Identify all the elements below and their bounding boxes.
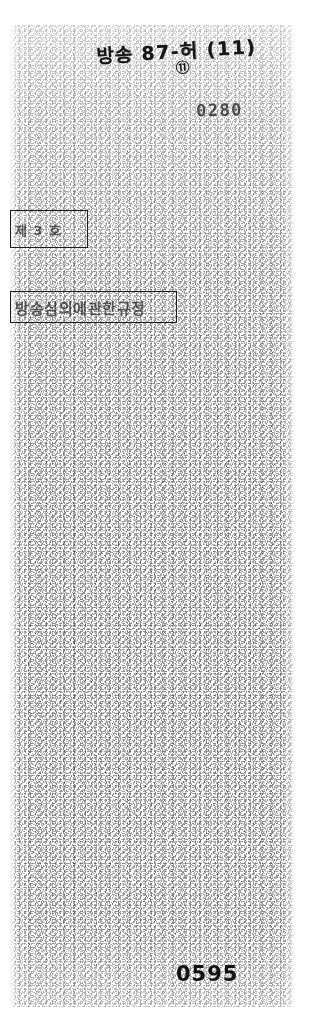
document-title-box: 방송심의에관한규정 (10, 291, 177, 323)
document-title-box-text: 방송심의에관한규정 (11, 297, 146, 318)
scan-edge-fade (10, 25, 295, 1007)
page-number: 0595 (176, 962, 238, 986)
scanned-document-page: 방송 87-허 (11) ⑪ 0280 제 3 호 방송심의에관한규정 (0, 0, 315, 1035)
scan-noise-layer-3 (10, 25, 295, 1007)
handwritten-circled-number: ⑪ (175, 57, 190, 78)
scan-noise-layer-2 (10, 25, 295, 1007)
scan-noise-layer-1 (10, 25, 295, 1007)
stamp-serial-number: 0280 (196, 99, 243, 120)
document-number-box-text: 제 3 호 (11, 220, 62, 239)
document-number-box: 제 3 호 (10, 210, 88, 248)
scan-density-gradient (10, 25, 295, 1007)
scan-area (10, 25, 295, 1007)
